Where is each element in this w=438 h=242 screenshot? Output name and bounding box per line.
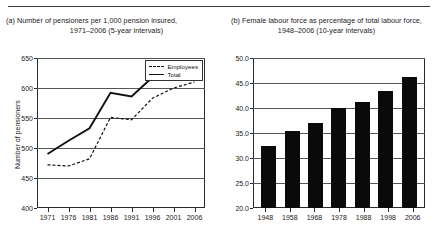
y-tick-label: 25.0 [235,180,249,187]
legend-item-employees: Employees [149,63,198,70]
x-tick [413,208,414,212]
x-tick [174,208,175,212]
x-tick-label: 1968 [307,214,323,222]
y-tick-label: 400 [21,205,33,212]
y-tick-label: 30.0 [235,155,249,162]
panel-b-plot-area: 20.025.030.035.040.045.050.0 19481958196… [253,58,425,208]
x-tick-label: 2006 [187,214,203,222]
x-tick-label: 1986 [103,214,119,222]
x-tick-label: 2001 [166,214,182,222]
y-tick-label: 45.0 [235,80,249,87]
solid-line-icon [149,74,164,75]
x-tick [314,208,315,212]
x-tick [69,208,70,212]
figure-page: (a) Number of pensioners per 1,000 pensi… [0,0,438,242]
bar [402,77,417,209]
x-tick [339,208,340,212]
bar [355,102,370,209]
y-tick [250,208,253,209]
panel-a-legend: Employees Total [145,60,203,81]
series-line-total [48,74,195,154]
y-tick-label: 20.0 [235,205,249,212]
x-tick [364,208,365,212]
y-tick-label: 50.0 [235,55,249,62]
y-tick-label: 550 [21,115,33,122]
x-tick-label: 1976 [61,214,77,222]
legend-label-employees: Employees [167,63,198,70]
x-tick-label: 1981 [82,214,98,222]
x-tick-label: 1948 [257,214,273,222]
panel-a-line-chart: (a) Number of pensioners per 1,000 pensi… [0,0,219,242]
x-tick-label: 1998 [380,214,396,222]
bar [261,146,276,209]
x-tick-label: 1971 [40,214,56,222]
x-tick [90,208,91,212]
bar [285,131,300,209]
x-tick [388,208,389,212]
x-tick-label: 1991 [124,214,140,222]
dashed-line-icon [149,66,164,67]
x-tick [195,208,196,212]
legend-label-total: Total [167,71,180,78]
x-tick [153,208,154,212]
panel-a-caption-line2: 1971–2006 (5-year intervals) [0,26,219,36]
x-tick [48,208,49,212]
panel-b-caption-line2: 1948–2006 (10-year intervals) [215,26,438,36]
y-tick-label: 40.0 [235,105,249,112]
x-tick-label: 1996 [145,214,161,222]
panel-a-caption: (a) Number of pensioners per 1,000 pensi… [0,16,219,36]
panel-a-plot-area: 400450500550600650 197119761981198619911… [37,58,205,208]
x-tick-label: 2006 [405,214,421,222]
y-tick-label: 600 [21,85,33,92]
x-tick-label: 1978 [331,214,347,222]
panel-b-caption: (b) Female labour force as percentage of… [215,16,438,36]
y-tick [34,208,37,209]
bar [308,123,323,208]
y-tick-label: 500 [21,145,33,152]
bar [331,108,346,208]
x-tick-label: 1988 [356,214,372,222]
x-tick [132,208,133,212]
x-tick [290,208,291,212]
panel-a-caption-line1: (a) Number of pensioners per 1,000 pensi… [0,16,219,26]
y-tick-label: 35.0 [235,130,249,137]
panel-b-bars [253,58,425,208]
y-tick-label: 450 [21,175,33,182]
x-tick [265,208,266,212]
bar [378,91,393,209]
panel-b-caption-line1: (b) Female labour force as percentage of… [215,16,438,26]
y-tick-label: 650 [21,55,33,62]
x-tick [111,208,112,212]
panel-a-y-axis-title: Number of pensioners [14,100,21,169]
x-tick-label: 1958 [282,214,298,222]
legend-item-total: Total [149,71,198,78]
